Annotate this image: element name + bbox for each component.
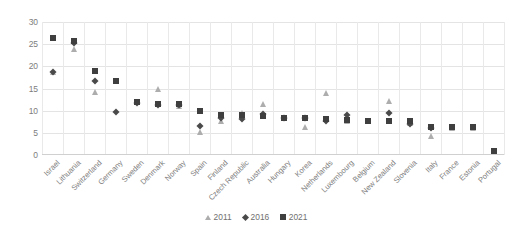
- data-point-2021-hungary: [281, 115, 287, 121]
- y-axis-tick-label: 20: [8, 62, 38, 71]
- x-axis-line: [42, 154, 504, 155]
- chart-legend: 2011 2016 2021: [0, 212, 512, 222]
- gridline-v: [189, 22, 190, 155]
- data-point-2021-denmark: [155, 101, 161, 107]
- legend-label-2011: 2011: [214, 212, 232, 222]
- gridline-v: [42, 22, 43, 155]
- gridline-v: [210, 22, 211, 155]
- y-axis-tick-label: 25: [8, 40, 38, 49]
- x-axis-tick-label-italy: Italy: [424, 159, 440, 175]
- data-point-2021-estonia: [470, 124, 476, 130]
- data-point-2011-netherlands: [323, 90, 329, 96]
- gridline-v: [168, 22, 169, 155]
- data-point-2011-italy: [428, 133, 434, 139]
- data-point-2021-switzerland: [92, 68, 98, 74]
- data-point-2021-netherlands: [323, 116, 329, 122]
- y-axis-tick-label: 5: [8, 129, 38, 138]
- gridline-v: [252, 22, 253, 155]
- data-point-2021-portugal: [491, 148, 497, 154]
- gridline-v: [483, 22, 484, 155]
- data-point-2021-france: [449, 124, 455, 130]
- x-axis-tick-label-france: France: [438, 159, 460, 181]
- data-point-2021-norway: [176, 101, 182, 107]
- gridline-v: [147, 22, 148, 155]
- gridline-v: [84, 22, 85, 155]
- y-axis-tick-label: 30: [8, 18, 38, 27]
- data-point-2021-belgium: [365, 118, 371, 124]
- data-point-2021-korea: [302, 115, 308, 121]
- legend-item-2011[interactable]: 2011: [205, 212, 232, 222]
- legend-label-2021: 2021: [289, 212, 308, 222]
- x-axis-tick-label-norway: Norway: [163, 159, 187, 183]
- data-point-2011-australia: [260, 101, 266, 107]
- data-point-2021-czech-republic: [239, 112, 245, 118]
- legend-item-2016[interactable]: 2016: [243, 212, 270, 222]
- gridline-v: [63, 22, 64, 155]
- gridline-v: [231, 22, 232, 155]
- gridline-v: [399, 22, 400, 155]
- gridline-v: [462, 22, 463, 155]
- data-point-2021-finland: [218, 112, 224, 118]
- legend-item-2021[interactable]: 2021: [280, 212, 307, 222]
- data-point-2011-korea: [302, 124, 308, 130]
- y-axis-tick-label: 0: [8, 151, 38, 160]
- y-axis-tick-label: 15: [8, 85, 38, 94]
- gridline-v: [273, 22, 274, 155]
- data-point-2021-germany: [113, 78, 119, 84]
- gridline-v: [378, 22, 379, 155]
- y-axis-tick-label: 10: [8, 107, 38, 116]
- gridline-v: [441, 22, 442, 155]
- data-point-2021-spain: [197, 108, 203, 114]
- data-point-2021-luxembourg: [344, 117, 350, 123]
- gridline-v: [126, 22, 127, 155]
- data-point-2021-new-zealand: [386, 118, 392, 124]
- data-point-2016-switzerland: [91, 78, 98, 85]
- gridline-v: [336, 22, 337, 155]
- data-point-2016-germany: [112, 109, 119, 116]
- gridline-v: [315, 22, 316, 155]
- gridline-v: [105, 22, 106, 155]
- data-point-2021-sweden: [134, 99, 140, 105]
- data-point-2011-switzerland: [92, 89, 98, 95]
- data-point-2021-lithuania: [71, 38, 77, 44]
- diamond-icon: [242, 213, 249, 220]
- plot-area: [42, 22, 504, 155]
- data-point-2021-australia: [260, 113, 266, 119]
- data-point-2021-slovenia: [407, 118, 413, 124]
- scatter-chart: 051015202530 IsraelLithuaniaSwitzerlandG…: [0, 0, 512, 234]
- data-point-2016-new-zealand: [385, 110, 392, 117]
- legend-label-2016: 2016: [251, 212, 270, 222]
- triangle-icon: [205, 215, 211, 220]
- gridline-v: [294, 22, 295, 155]
- data-point-2011-denmark: [155, 86, 161, 92]
- gridline-v: [420, 22, 421, 155]
- data-point-2011-new-zealand: [386, 98, 392, 104]
- data-point-2021-italy: [428, 124, 434, 130]
- gridline-v: [357, 22, 358, 155]
- gridline-v: [504, 22, 505, 155]
- square-icon: [280, 214, 286, 220]
- data-point-2021-israel: [50, 35, 56, 41]
